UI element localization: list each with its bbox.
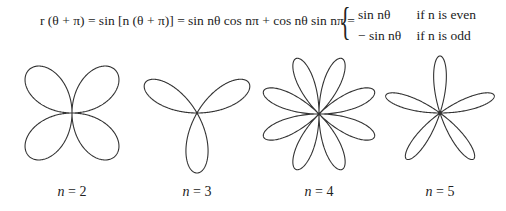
rose-curves-svg [0,48,506,180]
equation-lhs: r (θ + π) = sin [n (θ + π)] = sin nθ cos… [40,13,355,29]
rose-curve-n5 [386,56,495,160]
label-n4: n = 4 [305,184,334,200]
case-odd: − sin nθ if n is odd [358,28,471,44]
parity-equation: r (θ + π) = sin [n (θ + π)] = sin nθ cos… [40,4,506,48]
case-even: sin nθ if n is even [358,7,476,23]
case-odd-expr: − sin nθ [358,28,413,44]
case-odd-condition: if n is odd [416,28,470,44]
rose-curves-panel [0,48,506,180]
cases-brace: { [340,2,351,42]
rose-curve-n4 [263,58,374,169]
label-n2: n = 2 [58,184,87,200]
rose-curve-n2 [25,66,119,160]
rose-curve-n3 [144,79,250,173]
case-even-condition: if n is even [416,7,476,23]
label-n5: n = 5 [426,184,455,200]
case-even-expr: sin nθ [358,7,413,23]
label-n3: n = 3 [183,184,212,200]
